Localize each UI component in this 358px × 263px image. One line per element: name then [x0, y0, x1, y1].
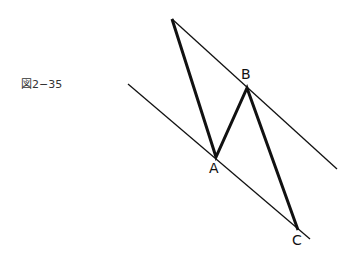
zigzag-channel-diagram — [0, 0, 358, 263]
point-label-a: A — [209, 160, 219, 176]
point-label-b: B — [241, 66, 251, 82]
price-zigzag — [172, 19, 298, 230]
point-label-c: C — [292, 232, 302, 248]
lower-channel-line — [128, 84, 310, 239]
